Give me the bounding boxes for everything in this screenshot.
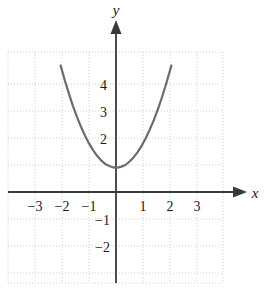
x-tick-label--3: −3 [28,199,43,214]
x-tick-label--1: −1 [82,199,97,214]
y-tick-label-2: 2 [100,132,107,147]
y-tick-label-3: 3 [100,105,107,120]
x-tick-label-1: 1 [140,199,147,214]
y-tick-label--2: −2 [95,240,110,255]
x-tick-label--2: −2 [55,199,70,214]
y-axis-label: y [111,2,120,18]
x-tick-label-3: 3 [194,199,201,214]
figure-background [0,0,266,290]
x-tick-label-2: 2 [167,199,174,214]
graph-figure: x y −3 −2 −1 1 2 3 4 3 2 −1 −2 [0,0,266,290]
x-axis-label: x [251,185,259,201]
y-tick-label-4: 4 [100,78,107,93]
y-tick-label--1: −1 [95,213,110,228]
